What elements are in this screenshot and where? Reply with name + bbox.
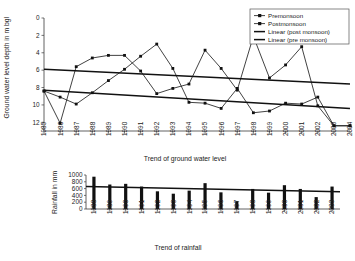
top-x-tick-label: 1988	[89, 121, 96, 136]
top-x-tick-label: 1993	[169, 121, 176, 136]
top-series-marker	[300, 45, 303, 48]
top-x-axis-title: Trend of ground water level	[144, 155, 227, 163]
top-y-tick-label: 2	[36, 32, 40, 39]
bottom-x-tick-label: 1992	[154, 199, 161, 214]
legend-marker-0	[258, 14, 261, 17]
top-trendline-post	[44, 69, 350, 84]
top-series-marker	[75, 65, 78, 68]
top-x-tick-label: 1997	[234, 121, 241, 136]
top-x-tick-label: 1989	[105, 121, 112, 136]
top-series-marker	[332, 124, 335, 127]
bottom-x-tick-label: 2001	[297, 199, 304, 214]
top-series-marker	[316, 104, 319, 107]
top-series-marker	[204, 102, 207, 105]
top-series-marker	[220, 107, 223, 110]
top-x-tick-label: 1994	[185, 121, 192, 136]
top-series-marker	[59, 122, 62, 125]
top-x-tick-label: 1985	[40, 121, 47, 136]
top-series-marker	[316, 96, 319, 99]
top-x-tick-label: 1990	[121, 121, 128, 136]
top-series-marker	[268, 77, 271, 80]
top-series-marker	[188, 83, 191, 86]
bottom-x-tick-label: 1990	[122, 199, 129, 214]
legend-label-0: Premonsoon	[268, 12, 304, 19]
bottom-x-tick-label: 1993	[170, 199, 177, 214]
legend-label-2: Linear (post monsoon)	[268, 28, 330, 35]
top-y-tick-label: 10	[32, 101, 40, 108]
top-y-axis-title: Ground water level depth in m bgl	[3, 16, 11, 118]
bottom-y-tick-label: 0	[79, 205, 83, 212]
bottom-x-tick-label: 1989	[106, 199, 113, 214]
bottom-y-tick-label: 400	[72, 192, 83, 199]
top-series-marker	[171, 67, 174, 70]
top-series-marker	[155, 43, 158, 46]
top-series-marker	[268, 110, 271, 113]
bottom-y-tick-label: 200	[72, 198, 83, 205]
top-series-marker	[123, 54, 126, 57]
top-series-line-1	[44, 36, 350, 126]
bottom-x-tick-label: 1999	[265, 199, 272, 214]
bottom-x-tick-label: 1998	[249, 199, 256, 214]
bottom-x-axis-title: Trend of rainfall	[155, 244, 202, 251]
legend-marker-1	[258, 22, 261, 25]
top-series-marker	[252, 111, 255, 114]
top-series-marker	[91, 91, 94, 94]
top-series-marker	[107, 79, 110, 82]
top-series-marker	[91, 57, 94, 60]
top-series-marker	[107, 54, 110, 57]
bottom-x-tick-label: 1991	[138, 199, 145, 214]
bottom-x-tick-label: 2000	[281, 199, 288, 214]
top-series-marker	[220, 67, 223, 70]
top-x-tick-label: 1999	[266, 121, 273, 136]
top-series-marker	[155, 92, 158, 95]
top-y-tick-label: 8	[36, 84, 40, 91]
top-series-marker	[43, 90, 46, 93]
top-x-tick-label: 2000	[282, 121, 289, 136]
figure-container: 0246810121985198619871988198919901991199…	[0, 0, 355, 261]
top-x-tick-label: 1998	[250, 121, 257, 136]
bottom-x-tick-label: 1988	[90, 199, 97, 214]
top-series-marker	[171, 87, 174, 90]
top-x-tick-label: 1987	[73, 121, 80, 136]
bottom-x-tick-label: 1997	[233, 199, 240, 214]
bottom-x-tick-label: 2003	[328, 199, 335, 214]
top-series-marker	[349, 124, 352, 127]
top-x-tick-label: 1992	[153, 121, 160, 136]
top-series-marker	[284, 64, 287, 67]
combined-trend-figure: 0246810121985198619871988198919901991199…	[0, 0, 355, 261]
top-series-marker	[300, 103, 303, 106]
top-series-marker	[75, 103, 78, 106]
top-trendline-pre	[44, 90, 350, 108]
top-series-marker	[139, 55, 142, 58]
top-series-marker	[188, 101, 191, 104]
top-x-tick-label: 2002	[314, 121, 321, 136]
top-x-tick-label: 1995	[201, 121, 208, 136]
top-y-tick-label: 4	[36, 49, 40, 56]
bottom-y-tick-label: 600	[72, 185, 83, 192]
bottom-x-tick-label: 1996	[217, 199, 224, 214]
top-x-tick-label: 2001	[298, 121, 305, 136]
top-y-tick-label: 12	[32, 119, 40, 126]
top-series-marker	[204, 49, 207, 52]
bottom-x-tick-label: 2002	[313, 199, 320, 214]
top-x-tick-label: 1991	[137, 121, 144, 136]
legend-label-1: Postmonsoon	[268, 20, 306, 27]
top-series-marker	[236, 89, 239, 92]
top-y-tick-label: 6	[36, 66, 40, 73]
bottom-y-tick-label: 1000	[68, 171, 83, 178]
top-x-tick-label: 2004	[346, 121, 353, 136]
top-series-marker	[59, 96, 62, 99]
bottom-y-axis-title: Rainfall in mm	[51, 171, 58, 214]
top-x-tick-label: 2003	[330, 121, 337, 136]
bottom-x-tick-label: 1995	[201, 199, 208, 214]
top-series-marker	[123, 68, 126, 71]
top-series-marker	[284, 102, 287, 105]
top-x-tick-label: 1996	[218, 121, 225, 136]
bottom-y-tick-label: 800	[72, 178, 83, 185]
top-series-marker	[139, 70, 142, 73]
legend-label-3: Linear (pre monsoon)	[268, 36, 327, 43]
bottom-x-tick-label: 1994	[186, 199, 193, 214]
top-y-tick-label: 0	[36, 14, 40, 21]
